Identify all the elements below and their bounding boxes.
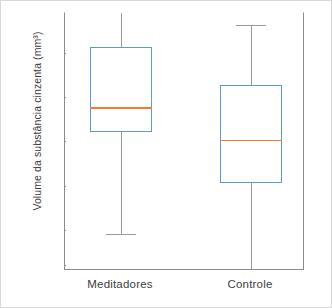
y-tick-mark — [64, 53, 66, 54]
whisker-cap-upper — [236, 25, 266, 26]
median-line — [220, 140, 282, 142]
whisker-upper — [251, 25, 252, 84]
boxplot-figure: 700 650 600 550 500 150 — [0, 0, 332, 308]
y-tick-mark — [64, 230, 66, 231]
whisker-cap-lower — [106, 234, 136, 235]
y-tick-mark — [64, 141, 66, 142]
box-iqr — [90, 47, 152, 132]
whisker-lower — [251, 183, 252, 270]
x-axis-label-controle: Controle — [190, 278, 310, 290]
box-group-controle[interactable] — [220, 13, 282, 269]
box-group-meditadores[interactable] — [90, 13, 152, 269]
y-tick-mark — [64, 97, 66, 98]
y-tick-mark — [64, 186, 66, 187]
whisker-lower — [121, 132, 122, 234]
box-iqr — [220, 85, 282, 183]
plot-area: 700 650 600 550 500 150 — [64, 12, 304, 270]
whisker-upper — [121, 13, 122, 47]
y-axis-title: Volume da substância cinzenta (mm³) — [31, 6, 43, 236]
median-line — [90, 107, 152, 109]
y-tick-mark — [64, 265, 66, 266]
x-axis-label-meditadores: Meditadores — [60, 278, 180, 290]
